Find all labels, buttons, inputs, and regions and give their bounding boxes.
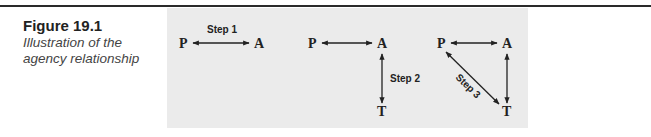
diagram-panel: P A Step 1 P A T Step 2 P A T Step 3 [167,8,528,128]
figure-label: Figure 19.1 [23,17,163,35]
node-p-3: P [437,36,446,51]
step2-label: Step 2 [390,73,420,84]
node-a-2: A [377,36,388,51]
step3-label: Step 3 [454,72,484,101]
figure-description-line1: Illustration of the [23,35,163,51]
agency-diagram: P A Step 1 P A T Step 2 P A T Step 3 [167,8,528,128]
figure-caption: Figure 19.1 Illustration of the agency r… [23,17,163,67]
node-p-2: P [308,36,317,51]
node-t-3: T [502,104,512,119]
top-rule [0,5,651,7]
node-a-3: A [502,36,513,51]
step1-diagram: P A Step 1 [179,24,265,51]
node-a-1: A [254,36,265,51]
step1-label: Step 1 [207,24,237,35]
figure-description-line2: agency relationship [23,51,163,67]
step3-diagram: P A T Step 3 [437,36,513,119]
step2-diagram: P A T Step 2 [308,36,420,119]
node-p-1: P [179,36,188,51]
node-t-2: T [377,104,387,119]
